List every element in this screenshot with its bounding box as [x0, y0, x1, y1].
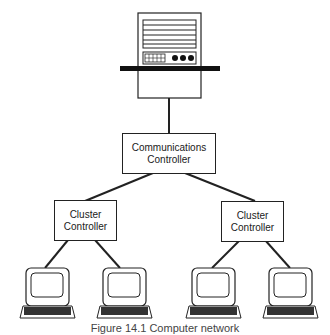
- mainframe-icon: [120, 13, 220, 98]
- connector-lines: [45, 98, 290, 268]
- cluster-controller-left-box: Cluster Controller: [54, 200, 117, 241]
- terminal-icons: [20, 268, 318, 318]
- comm-controller-line2: Controller: [132, 154, 206, 166]
- cluster-right-line2: Controller: [231, 222, 274, 234]
- terminal-icon-1: [20, 268, 75, 318]
- cluster-left-line1: Cluster: [64, 209, 107, 221]
- communications-controller-box: Communications Controller: [122, 133, 216, 174]
- cluster-right-line1: Cluster: [231, 210, 274, 222]
- comm-controller-line1: Communications: [132, 142, 206, 154]
- terminal-icon-3: [186, 268, 241, 318]
- cluster-controller-right-box: Cluster Controller: [221, 201, 284, 242]
- cluster-left-line2: Controller: [64, 221, 107, 233]
- terminal-icon-2: [97, 268, 152, 318]
- terminal-icon-4: [263, 268, 318, 318]
- figure-caption: Figure 14.1 Computer network: [0, 322, 330, 334]
